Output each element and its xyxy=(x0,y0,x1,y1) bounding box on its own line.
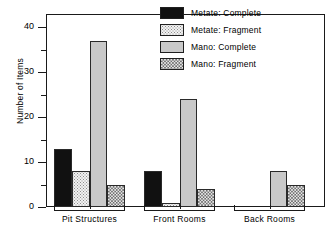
bar-chart: Number of Items 010203040 Pit Structures… xyxy=(0,0,335,244)
y-tick-major xyxy=(38,27,46,28)
y-tick-major xyxy=(38,117,46,118)
y-tick-label: 40 xyxy=(8,21,34,31)
y-tick-label: 20 xyxy=(8,111,34,121)
legend-item: Mano: Fragment xyxy=(160,55,278,72)
legend-label: Mano: Complete xyxy=(191,42,256,52)
legend-item: Metate: Complete xyxy=(160,4,278,21)
legend-label: Mano: Fragment xyxy=(191,59,256,69)
chart-legend: Metate: CompleteMetate: FragmentMano: Co… xyxy=(160,4,278,72)
y-tick-label: 10 xyxy=(8,156,34,166)
x-group-center-tick xyxy=(180,205,181,209)
y-tick-label: 30 xyxy=(8,66,34,76)
x-group-center-tick xyxy=(270,205,271,209)
x-group-label: Back Rooms xyxy=(220,214,319,224)
x-group-label: Pit Structures xyxy=(40,214,139,224)
legend-label: Metate: Fragment xyxy=(191,25,261,35)
x-group-center-tick xyxy=(90,205,91,209)
legend-item: Metate: Fragment xyxy=(160,21,278,38)
legend-swatch xyxy=(160,41,184,53)
legend-item: Mano: Complete xyxy=(160,38,278,55)
x-group-label: Front Rooms xyxy=(130,214,229,224)
legend-swatch xyxy=(160,7,184,19)
y-axis-title: Number of Items xyxy=(15,42,25,140)
legend-label: Metate: Complete xyxy=(191,8,261,18)
y-tick-major xyxy=(38,207,46,208)
y-tick-label: 0 xyxy=(8,201,34,211)
legend-swatch xyxy=(160,58,184,70)
y-tick-major xyxy=(38,72,46,73)
y-tick-major xyxy=(38,162,46,163)
legend-swatch xyxy=(160,24,184,36)
